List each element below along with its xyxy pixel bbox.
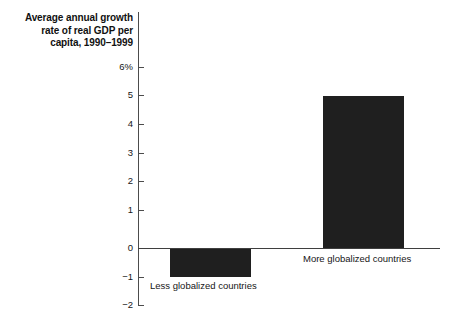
y-tick-1: [138, 210, 144, 211]
bar-chart: Average annual growth rate of real GDP p…: [0, 0, 455, 329]
y-tick-label-4: 4: [107, 119, 133, 129]
bar-more-globalized: [323, 96, 404, 248]
y-tick-label-1: 1: [107, 205, 133, 215]
y-tick-label-neg1: −1: [107, 272, 133, 282]
y-tick-label-neg2: −2: [107, 300, 133, 310]
y-tick-neg2: [138, 305, 144, 306]
y-tick-label-5: 5: [107, 90, 133, 100]
bar-less-globalized: [170, 249, 251, 277]
chart-title-line-1: Average annual growth: [0, 12, 133, 25]
y-tick-label-6: 6%: [107, 62, 133, 72]
y-tick-6: [138, 67, 144, 68]
y-axis-line: [138, 12, 139, 306]
chart-title-line-2: rate of real GDP per: [0, 25, 133, 38]
category-label-less-globalized: Less globalized countries: [150, 280, 257, 291]
y-tick-2: [138, 181, 144, 182]
y-tick-4: [138, 124, 144, 125]
y-tick-3: [138, 153, 144, 154]
y-tick-5: [138, 95, 144, 96]
y-tick-label-0: 0: [107, 243, 133, 253]
category-label-more-globalized: More globalized countries: [303, 253, 411, 264]
y-tick-label-2: 2: [107, 176, 133, 186]
chart-title-line-3: capita, 1990–1999: [0, 37, 133, 50]
y-tick-neg1: [138, 277, 144, 278]
y-tick-label-3: 3: [107, 148, 133, 158]
chart-title: Average annual growth rate of real GDP p…: [0, 12, 133, 50]
